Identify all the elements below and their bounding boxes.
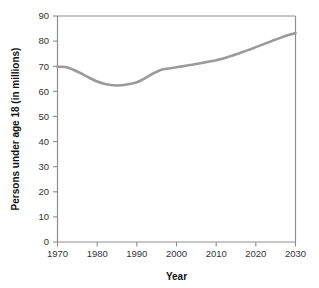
axes-group bbox=[58, 16, 296, 242]
x-tick-label-1980: 1980 bbox=[87, 248, 108, 259]
y-tick-label-10: 10 bbox=[38, 211, 49, 222]
y-tick-label-80: 80 bbox=[38, 35, 49, 46]
x-axis-title: Year bbox=[166, 271, 187, 282]
x-tick-label-1970: 1970 bbox=[47, 248, 68, 259]
x-ticks-group: 1970 1980 1990 2000 2010 2020 2030 bbox=[47, 242, 306, 259]
y-axis-title: Persons under age 18 (in millions) bbox=[10, 48, 21, 211]
series-group bbox=[58, 33, 296, 85]
x-tick-label-2020: 2020 bbox=[245, 248, 266, 259]
y-tick-label-0: 0 bbox=[44, 236, 49, 247]
y-tick-label-40: 40 bbox=[38, 136, 49, 147]
y-tick-label-70: 70 bbox=[38, 61, 49, 72]
x-tick-label-2010: 2010 bbox=[206, 248, 227, 259]
y-tick-label-90: 90 bbox=[38, 10, 49, 21]
y-tick-label-50: 50 bbox=[38, 111, 49, 122]
chart-container: 0 10 20 30 40 50 60 70 80 90 1970 1980 1… bbox=[0, 0, 319, 288]
y-ticks-group: 0 10 20 30 40 50 60 70 80 90 bbox=[38, 10, 57, 247]
y-tick-label-60: 60 bbox=[38, 86, 49, 97]
series-line-persons-under-18 bbox=[58, 33, 296, 85]
x-tick-label-2030: 2030 bbox=[285, 248, 306, 259]
y-tick-label-30: 30 bbox=[38, 161, 49, 172]
y-tick-label-20: 20 bbox=[38, 186, 49, 197]
x-tick-label-1990: 1990 bbox=[126, 248, 147, 259]
line-chart: 0 10 20 30 40 50 60 70 80 90 1970 1980 1… bbox=[0, 0, 319, 288]
x-tick-label-2000: 2000 bbox=[166, 248, 187, 259]
